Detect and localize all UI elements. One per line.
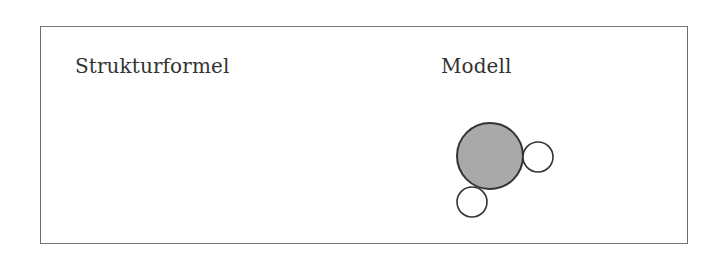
molecule-model [0, 0, 715, 263]
small-atom-right [523, 142, 553, 172]
small-atom-bottom [457, 187, 487, 217]
central-atom [457, 123, 523, 189]
